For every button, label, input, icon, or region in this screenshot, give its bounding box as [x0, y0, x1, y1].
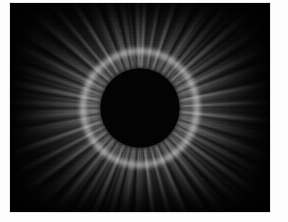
photo-plate: [9, 2, 271, 213]
eclipse-photograph: [0, 0, 288, 222]
lunar-silhouette-disk: [101, 68, 180, 147]
